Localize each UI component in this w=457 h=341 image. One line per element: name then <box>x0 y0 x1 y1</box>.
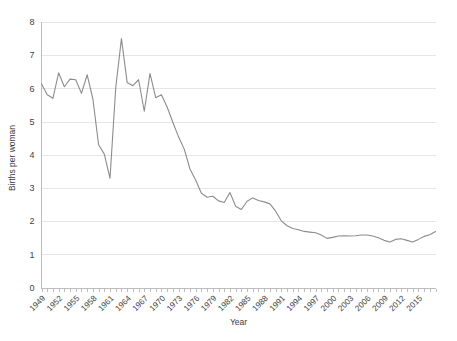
chart-title <box>0 0 457 5</box>
x-tick-label-1985: 1985 <box>233 293 253 313</box>
x-tick-label-1952: 1952 <box>45 293 65 313</box>
y-tick-label-3: 3 <box>29 183 34 193</box>
x-tick-label-1958: 1958 <box>79 293 99 313</box>
y-tick-label-8: 8 <box>29 17 34 27</box>
x-axis-tick-labels: 1949195219551958196119641967197019731976… <box>28 293 424 313</box>
x-tick-label-2006: 2006 <box>353 293 373 313</box>
y-tick-label-2: 2 <box>29 216 34 226</box>
gridlines-group <box>42 23 436 255</box>
fertility-series-line <box>42 39 436 242</box>
x-tick-label-1967: 1967 <box>131 293 151 313</box>
x-tick-label-2003: 2003 <box>336 293 356 313</box>
x-tick-label-1976: 1976 <box>182 293 202 313</box>
x-tick-label-1982: 1982 <box>216 293 236 313</box>
y-axis-title: Births per woman <box>7 125 17 191</box>
y-tick-label-5: 5 <box>29 117 34 127</box>
x-tick-label-1970: 1970 <box>148 293 168 313</box>
x-tick-label-1964: 1964 <box>114 293 134 313</box>
x-axis-group <box>42 22 437 292</box>
x-axis-title: Year <box>230 317 247 327</box>
x-tick-label-1994: 1994 <box>285 293 305 313</box>
y-tick-label-6: 6 <box>29 84 34 94</box>
x-tick-label-2012: 2012 <box>388 293 408 313</box>
x-tick-label-1949: 1949 <box>28 293 48 313</box>
fertility-line-chart: 012345678 194919521955195819611964196719… <box>0 0 457 341</box>
x-tick-label-1955: 1955 <box>62 293 82 313</box>
y-tick-label-0: 0 <box>29 283 34 293</box>
x-tick-label-1997: 1997 <box>302 293 322 313</box>
x-tick-label-1961: 1961 <box>96 293 116 313</box>
x-tick-label-2015: 2015 <box>405 293 425 313</box>
x-tick-label-2009: 2009 <box>371 293 391 313</box>
x-tick-label-2000: 2000 <box>319 293 339 313</box>
y-axis-tick-labels: 012345678 <box>29 17 34 293</box>
x-tick-label-1988: 1988 <box>251 293 271 313</box>
x-tick-label-1979: 1979 <box>199 293 219 313</box>
chart-container: 012345678 194919521955195819611964196719… <box>0 0 457 341</box>
x-tick-label-1991: 1991 <box>268 293 288 313</box>
y-tick-label-7: 7 <box>29 50 34 60</box>
y-tick-label-1: 1 <box>29 250 34 260</box>
y-tick-label-4: 4 <box>29 150 34 160</box>
x-tick-label-1973: 1973 <box>165 293 185 313</box>
